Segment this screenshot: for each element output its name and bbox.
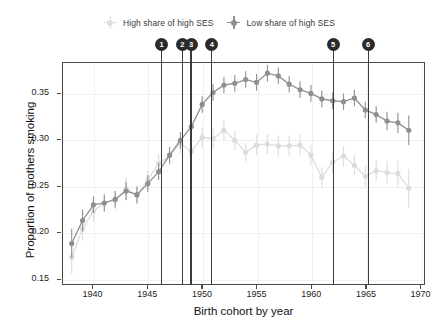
data-point — [243, 77, 248, 82]
annotation-pin-3[interactable]: 3 — [185, 38, 198, 51]
data-point — [134, 192, 139, 197]
x-axis-title: Birth cohort by year — [62, 305, 425, 317]
x-tick-label: 1960 — [301, 289, 321, 299]
x-tick-label: 1955 — [247, 289, 267, 299]
data-point — [395, 120, 400, 125]
series-layer — [63, 63, 424, 284]
y-tick-mark — [57, 279, 61, 280]
y-tick-mark — [57, 186, 61, 187]
data-point — [200, 135, 205, 140]
data-point — [352, 163, 357, 168]
data-point — [308, 153, 313, 158]
x-tick-mark — [92, 285, 93, 289]
x-tick-mark — [256, 285, 257, 289]
data-point — [254, 80, 259, 85]
data-point — [145, 181, 150, 186]
annotation-line-4 — [211, 49, 212, 285]
data-point — [123, 188, 128, 193]
data-point — [102, 200, 107, 205]
y-tick-mark — [57, 139, 61, 140]
x-tick-mark — [201, 285, 202, 289]
data-point — [265, 141, 270, 146]
x-tick-mark — [420, 285, 421, 289]
data-point — [243, 150, 248, 155]
x-tick-label: 1970 — [411, 289, 431, 299]
annotation-pin-1[interactable]: 1 — [155, 38, 168, 51]
chart-legend: High share of high SESLow share of high … — [0, 16, 439, 29]
legend-item-low_ses[interactable]: Low share of high SES — [227, 16, 335, 29]
annotation-pin-6[interactable]: 6 — [362, 38, 375, 51]
data-point — [221, 83, 226, 88]
legend-label: Low share of high SES — [246, 18, 335, 28]
series-low_ses — [69, 65, 411, 258]
x-tick-label: 1965 — [356, 289, 376, 299]
x-tick-label: 1950 — [192, 289, 212, 299]
cross-dot-marker — [104, 16, 117, 29]
legend-item-high_ses[interactable]: High share of high SES — [104, 16, 214, 29]
data-point — [232, 138, 237, 143]
data-point — [287, 82, 292, 87]
data-point — [319, 175, 324, 180]
y-tick-mark — [57, 93, 61, 94]
x-tick-mark — [147, 285, 148, 289]
y-axis-title: Proportion of mothers smoking — [24, 65, 36, 295]
y-tick-mark — [57, 232, 61, 233]
data-point — [374, 168, 379, 173]
data-point — [297, 87, 302, 92]
annotation-line-6 — [368, 49, 369, 285]
x-tick-label: 1945 — [137, 289, 157, 299]
series-line — [72, 73, 409, 243]
annotation-pin-5[interactable]: 5 — [327, 38, 340, 51]
data-point — [232, 81, 237, 86]
data-point — [297, 142, 302, 147]
annotation-line-1 — [161, 49, 162, 285]
cross-dot-marker — [227, 16, 240, 29]
data-point — [91, 202, 96, 207]
data-point — [341, 153, 346, 158]
data-point — [276, 143, 281, 148]
data-point — [80, 218, 85, 223]
data-point — [341, 99, 346, 104]
annotation-line-3 — [190, 49, 191, 285]
data-point — [265, 71, 270, 76]
data-point — [384, 118, 389, 123]
plot-area — [62, 62, 425, 285]
data-point — [406, 186, 411, 191]
x-tick-mark — [311, 285, 312, 289]
data-point — [200, 102, 205, 107]
data-point — [287, 143, 292, 148]
annotation-pin-4[interactable]: 4 — [205, 38, 218, 51]
x-tick-mark — [365, 285, 366, 289]
data-point — [406, 128, 411, 133]
chart-figure: High share of high SESLow share of high … — [0, 0, 439, 332]
data-point — [113, 197, 118, 202]
annotation-line-5 — [333, 49, 334, 285]
data-point — [352, 95, 357, 100]
data-point — [276, 73, 281, 78]
data-point — [167, 153, 172, 158]
data-point — [221, 128, 226, 133]
data-point — [319, 96, 324, 101]
series-high_ses — [69, 120, 411, 274]
x-tick-label: 1940 — [83, 289, 103, 299]
data-point — [374, 112, 379, 117]
annotation-line-2 — [182, 49, 183, 285]
data-point — [69, 241, 74, 246]
data-point — [254, 142, 259, 147]
legend-label: High share of high SES — [123, 18, 214, 28]
data-point — [308, 91, 313, 96]
data-point — [384, 170, 389, 175]
data-point — [395, 171, 400, 176]
